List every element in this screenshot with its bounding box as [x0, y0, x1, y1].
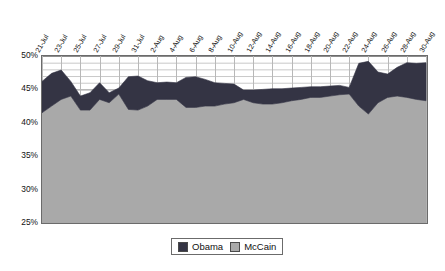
stacked-area-plot: [42, 56, 427, 223]
x-axis-tick-label: 14-Aug: [264, 30, 282, 54]
y-axis-tick-label: 25%: [21, 218, 38, 227]
legend-label-mccain: McCain: [244, 242, 276, 252]
x-axis-tick-label: 10-Aug: [226, 30, 244, 54]
x-axis-tick-label: 23-Jul: [53, 34, 69, 54]
legend-swatch-mccain: [230, 242, 240, 252]
x-axis-tick-label: 27-Jul: [92, 34, 108, 54]
x-axis-tick-label: 8-Aug: [207, 34, 223, 54]
x-axis-tick-label: 16-Aug: [284, 30, 302, 54]
y-axis-tick-label: 40%: [21, 118, 38, 127]
legend-item-mccain: McCain: [230, 242, 276, 252]
x-axis-tick-label: 25-Jul: [72, 34, 88, 54]
poll-area-chart: 21-Jul23-Jul25-Jul27-Jul29-Jul31-Jul2-Au…: [0, 0, 445, 271]
x-axis-tick-label: 4-Aug: [168, 34, 184, 54]
y-axis-tick-label: 50%: [21, 51, 38, 60]
x-axis-tick-label: 28-Aug: [399, 30, 417, 54]
y-axis-tick-label: 30%: [21, 185, 38, 194]
legend-swatch-obama: [178, 242, 188, 252]
x-axis-tick-label: 24-Aug: [360, 30, 378, 54]
y-axis-tick-label: 45%: [21, 84, 38, 93]
x-axis-tick-label: 12-Aug: [245, 30, 263, 54]
x-axis-tick-label: 31-Jul: [130, 34, 146, 54]
x-axis-tick-label: 29-Jul: [111, 34, 127, 54]
legend-label-obama: Obama: [192, 242, 223, 252]
x-axis-tick-label: 20-Aug: [322, 30, 340, 54]
y-axis-tick-label: 35%: [21, 151, 38, 160]
x-axis-tick-label: 30-Aug: [418, 30, 436, 54]
plot-area: [41, 55, 428, 224]
x-axis-tick-label: 2-Aug: [149, 34, 165, 54]
x-axis-labels: 21-Jul23-Jul25-Jul27-Jul29-Jul31-Jul2-Au…: [0, 0, 445, 56]
legend-item-obama: Obama: [178, 242, 223, 252]
x-axis-tick-label: 22-Aug: [341, 30, 359, 54]
x-axis-tick-label: 26-Aug: [380, 30, 398, 54]
x-axis-tick-label: 6-Aug: [188, 34, 204, 54]
chart-legend: Obama McCain: [171, 238, 283, 255]
x-axis-tick-label: 18-Aug: [303, 30, 321, 54]
y-axis-labels: 25%30%35%40%45%50%: [0, 0, 41, 271]
